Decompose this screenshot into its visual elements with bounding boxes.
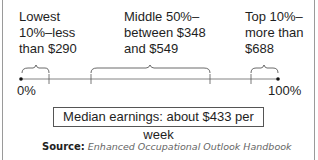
end-dot-icon (276, 77, 280, 81)
source-line: Source:Enhanced Occupational Outlook Han… (42, 140, 282, 154)
median-earnings-box: Median earnings: about $433 per week (53, 107, 264, 127)
axis-end-label: 100% (268, 83, 301, 98)
start-dot-icon (19, 77, 23, 81)
source-prefix: Source: (42, 141, 85, 152)
source-title: Enhanced Occupational Outlook Handbook (88, 141, 292, 152)
lowest-brace-icon (22, 65, 49, 73)
axis-start-label: 0% (17, 83, 36, 98)
middle-brace-icon (91, 65, 210, 73)
top-brace-icon (251, 65, 278, 73)
